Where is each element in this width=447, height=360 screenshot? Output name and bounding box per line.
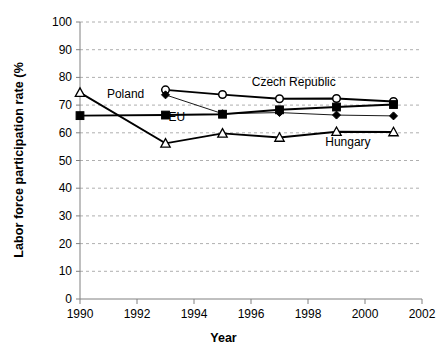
- series-line-eu: [80, 105, 394, 116]
- y-tick-label: 30: [59, 209, 73, 223]
- x-tick-label: 1994: [181, 307, 208, 321]
- chart-container: Labor force participation rate (% 010203…: [0, 0, 447, 360]
- series-marker-eu: [390, 101, 398, 109]
- y-tick-label: 60: [59, 126, 73, 140]
- x-axis-title: Year: [0, 331, 447, 345]
- y-tick-label: 0: [65, 292, 72, 306]
- series-marker-hungary: [75, 88, 84, 96]
- y-tick-label: 50: [59, 154, 73, 168]
- x-tick-label: 1992: [124, 307, 151, 321]
- x-tick-label: 1996: [238, 307, 265, 321]
- y-tick-label: 80: [59, 70, 73, 84]
- series-label-poland: Poland: [107, 87, 144, 101]
- x-tick-label: 1990: [67, 307, 94, 321]
- y-tick-label: 20: [59, 237, 73, 251]
- y-tick-label: 40: [59, 181, 73, 195]
- series-marker-eu: [333, 103, 341, 111]
- series-marker-czech-republic: [219, 91, 227, 99]
- series-label-eu: EU: [169, 110, 186, 124]
- line-chart-plot: 0102030405060708090100199019921994199619…: [0, 0, 447, 360]
- series-marker-czech-republic: [333, 95, 341, 103]
- series-label-czech-republic: Czech Republic: [252, 75, 336, 89]
- x-tick-label: 2000: [352, 307, 379, 321]
- series-marker-eu: [76, 112, 84, 120]
- y-tick-label: 70: [59, 98, 73, 112]
- y-tick-label: 100: [52, 15, 72, 29]
- y-tick-label: 10: [59, 264, 73, 278]
- x-tick-label: 2002: [409, 307, 436, 321]
- y-tick-label: 90: [59, 43, 73, 57]
- series-marker-poland: [390, 112, 398, 120]
- series-marker-czech-republic: [276, 95, 284, 103]
- series-label-hungary: Hungary: [325, 135, 370, 149]
- x-tick-label: 1998: [295, 307, 322, 321]
- series-marker-poland: [333, 111, 341, 119]
